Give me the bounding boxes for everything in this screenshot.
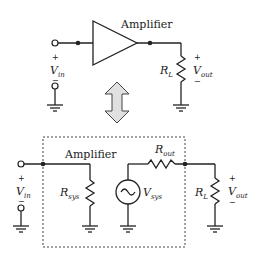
amplifier-equivalent-circuit-diagram: Amplifier RL + Vout − + Vin − bbox=[0, 0, 262, 257]
svg-text:−: − bbox=[194, 77, 201, 86]
junction-dot bbox=[76, 41, 81, 46]
rsys-resistor-icon bbox=[86, 180, 94, 206]
rl-label: RL bbox=[159, 64, 173, 79]
input-return-terminal bbox=[18, 205, 24, 211]
ground-icon bbox=[207, 226, 223, 232]
input-terminal-top bbox=[52, 40, 58, 46]
load-resistor-icon bbox=[211, 178, 219, 204]
rout-resistor-icon bbox=[148, 160, 175, 168]
vsys-label: Vsys bbox=[143, 186, 163, 201]
ground-icon bbox=[47, 105, 63, 111]
rout-label: Rout bbox=[154, 143, 175, 158]
top-circuit: Amplifier RL + Vout − + Vin − bbox=[47, 18, 213, 111]
input-return-terminal bbox=[52, 83, 58, 89]
junction-dot bbox=[183, 162, 188, 167]
junction-dot bbox=[41, 162, 46, 167]
amplifier-label: Amplifier bbox=[64, 148, 117, 161]
load-resistor-icon bbox=[177, 56, 185, 82]
input-terminal-bottom bbox=[18, 161, 24, 167]
amplifier-label: Amplifier bbox=[120, 18, 173, 31]
rl-label: RL bbox=[194, 186, 208, 201]
svg-text:−: − bbox=[229, 198, 236, 207]
rsys-label: Rsys bbox=[59, 186, 80, 201]
svg-text:+: + bbox=[52, 53, 59, 62]
svg-text:+: + bbox=[18, 174, 25, 183]
junction-dot bbox=[148, 41, 153, 46]
double-arrow-icon bbox=[105, 82, 129, 123]
ground-icon bbox=[173, 105, 189, 111]
ground-icon bbox=[82, 226, 98, 232]
ground-icon bbox=[13, 226, 29, 232]
ground-icon bbox=[120, 226, 136, 232]
bottom-circuit: Amplifier + Vin − Rsys bbox=[13, 137, 248, 247]
svg-text:+: + bbox=[194, 53, 201, 62]
svg-text:+: + bbox=[229, 174, 236, 183]
